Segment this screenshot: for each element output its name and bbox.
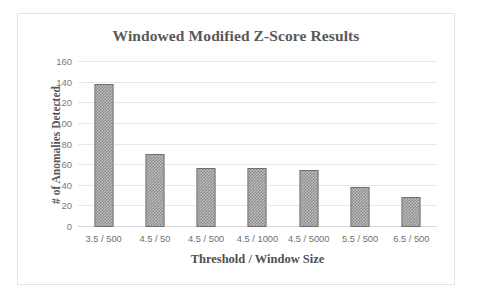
y-tick-label: 0 [67, 221, 72, 232]
bar[interactable] [197, 168, 216, 227]
bar-slot: 6.5 / 500 [386, 62, 437, 227]
y-tick-label: 40 [61, 179, 72, 190]
y-tick-label: 60 [61, 159, 72, 170]
bar-slot: 5.5 / 500 [334, 62, 385, 227]
bars-layer: 3.5 / 5004.5 / 504.5 / 5004.5 / 10004.5 … [78, 62, 437, 227]
x-axis-title: Threshold / Window Size [78, 252, 437, 267]
plot-area: 160140120100806040200 3.5 / 5004.5 / 504… [78, 62, 437, 227]
bar-slot: 4.5 / 1000 [232, 62, 283, 227]
y-tick-label: 120 [56, 97, 72, 108]
bar-slot: 4.5 / 500 [181, 62, 232, 227]
y-tick-label: 100 [56, 117, 72, 128]
bar[interactable] [299, 170, 318, 227]
bar-slot: 4.5 / 5000 [283, 62, 334, 227]
chart-title: Windowed Modified Z-Score Results [18, 27, 454, 45]
y-tick-label: 160 [56, 56, 72, 67]
x-tick-label: 4.5 / 1000 [237, 234, 278, 244]
x-tick-label: 4.5 / 50 [139, 234, 170, 244]
y-tick-label: 80 [61, 138, 72, 149]
x-tick-label: 4.5 / 500 [188, 234, 224, 244]
bar-slot: 4.5 / 50 [129, 62, 180, 227]
bar[interactable] [145, 154, 164, 227]
x-tick-label: 3.5 / 500 [86, 234, 122, 244]
y-tick-label: 20 [61, 200, 72, 211]
x-tick-label: 4.5 / 5000 [288, 234, 329, 244]
bar[interactable] [351, 187, 370, 227]
bar[interactable] [248, 168, 267, 227]
y-tick-label: 140 [56, 76, 72, 87]
bar[interactable] [94, 84, 113, 227]
x-tick-label: 5.5 / 500 [342, 234, 378, 244]
chart-figure: Windowed Modified Z-Score Results # of A… [17, 13, 455, 285]
bar[interactable] [402, 197, 421, 227]
x-tick-label: 6.5 / 500 [393, 234, 429, 244]
bar-slot: 3.5 / 500 [78, 62, 129, 227]
